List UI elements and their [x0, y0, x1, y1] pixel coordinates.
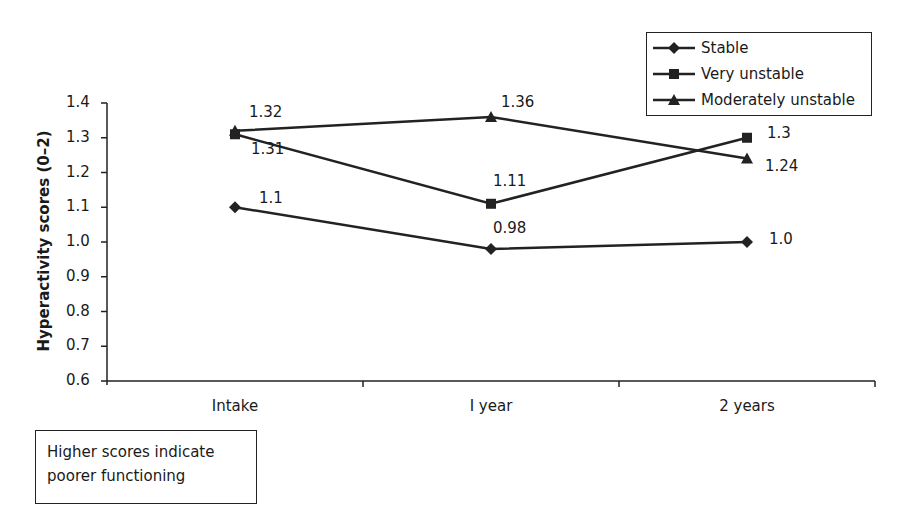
- legend-item-stable: Stable: [653, 37, 749, 59]
- y-axis-label: Hyperactivity scores (0–2): [35, 131, 53, 352]
- legend-label: Stable: [701, 39, 749, 57]
- legend-item-very-unstable: Very unstable: [653, 63, 804, 85]
- data-label: 1.31: [251, 140, 284, 158]
- y-tick-label: 1.3: [66, 128, 90, 146]
- y-tick-label: 0.7: [66, 336, 90, 354]
- x-category-label: I year: [470, 397, 513, 415]
- data-label: 1.32: [249, 103, 282, 121]
- x-category-label: 2 years: [719, 397, 775, 415]
- legend-label: Moderately unstable: [701, 91, 855, 109]
- data-label: 1.0: [769, 230, 793, 248]
- axes: [101, 103, 875, 387]
- note-line-1: Higher scores indicate: [47, 440, 256, 464]
- triangle-marker-icon: [653, 93, 695, 107]
- y-tick-label: 1.4: [66, 93, 90, 111]
- legend-item-moderately-unstable: Moderately unstable: [653, 89, 855, 111]
- data-label: 0.98: [493, 219, 526, 237]
- y-tick-label: 1.1: [66, 197, 90, 215]
- y-tick-label: 1.0: [66, 232, 90, 250]
- data-label: 1.24: [765, 157, 798, 175]
- series-lines: [229, 111, 753, 255]
- y-tick-label: 0.9: [66, 267, 90, 285]
- data-label: 1.36: [501, 93, 534, 111]
- note-line-2: poorer functioning: [47, 464, 256, 488]
- data-label: 1.3: [767, 124, 791, 142]
- square-marker-icon: [653, 67, 695, 81]
- legend-label: Very unstable: [701, 65, 804, 83]
- x-category-label: Intake: [212, 397, 258, 415]
- diamond-marker-icon: [653, 41, 695, 55]
- y-tick-label: 1.2: [66, 163, 90, 181]
- y-tick-label: 0.8: [66, 302, 90, 320]
- annotation-note: Higher scores indicate poorer functionin…: [35, 430, 257, 504]
- legend: Stable Very unstable Moderately unstable: [646, 32, 872, 116]
- data-label: 1.11: [493, 172, 526, 190]
- data-label: 1.1: [259, 189, 283, 207]
- y-tick-label: 0.6: [66, 371, 90, 389]
